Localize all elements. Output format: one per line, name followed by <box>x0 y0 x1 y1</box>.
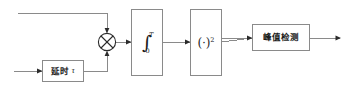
square-expression: (·)2 <box>197 37 214 49</box>
delay-param-tau: τ <box>72 67 75 75</box>
arrowhead-into-multiplier-top <box>105 28 110 34</box>
wire-delay-to-multiplier <box>84 54 107 71</box>
squarer-block-label: (·)2 <box>190 9 222 76</box>
square-exponent: 2 <box>210 36 214 44</box>
integral-lower-limit: 0 <box>146 48 150 55</box>
integral-expression: ∫T0 <box>142 33 152 52</box>
integrator-block-label: ∫T0 <box>131 9 163 76</box>
arrowhead-into-multiplier-bottom <box>105 51 110 57</box>
arrowhead-output <box>336 36 342 41</box>
multiplier-icon <box>98 33 115 50</box>
integral-upper-limit: T <box>149 32 153 39</box>
block-diagram: 延时τ ∫T0 (·)2 峰值检测 <box>0 0 347 93</box>
delay-block-label: 延时τ <box>42 60 84 82</box>
peak-detection-block-label: 峰值检测 <box>252 24 310 51</box>
delay-label-text: 延时 <box>51 67 69 76</box>
